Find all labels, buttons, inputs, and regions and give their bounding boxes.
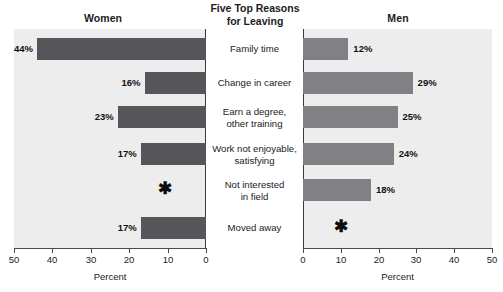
tick-label-men-3: 30 xyxy=(402,254,430,265)
tick-label-women-4: 10 xyxy=(154,254,182,265)
x-axis-women xyxy=(14,248,206,249)
tick-label-men-1: 10 xyxy=(327,254,355,265)
tick-women-0 xyxy=(14,248,15,253)
category-label-5: Moved away xyxy=(206,222,303,234)
category-label-3-line2: satisfying xyxy=(206,155,303,167)
category-label-3: Work not enjoyable,satisfying xyxy=(206,143,303,166)
x-axis-title-women: Percent xyxy=(14,271,206,282)
tick-label-women-3: 20 xyxy=(115,254,143,265)
category-label-2-line1: Earn a degree, xyxy=(206,106,303,118)
tick-label-women-1: 40 xyxy=(38,254,66,265)
category-label-1: Change in career xyxy=(206,77,303,89)
bar-women-1 xyxy=(145,72,206,94)
tick-men-4 xyxy=(454,248,455,253)
tick-label-women-5: 0 xyxy=(192,254,220,265)
tick-women-4 xyxy=(168,248,169,253)
bar-women-2 xyxy=(118,106,206,128)
category-label-5-line1: Moved away xyxy=(206,222,303,234)
panel-title-men: Men xyxy=(303,12,493,24)
category-label-3-line1: Work not enjoyable, xyxy=(206,143,303,155)
tick-label-women-0: 50 xyxy=(0,254,28,265)
chart-title: Five Top Reasons for Leaving xyxy=(196,2,314,27)
tick-men-3 xyxy=(416,248,417,253)
value-label-women-5: 17% xyxy=(97,217,137,239)
tick-women-1 xyxy=(52,248,53,253)
suppressed-marker-men-5: ✱ xyxy=(331,216,351,238)
bar-men-0 xyxy=(303,38,348,60)
category-label-2: Earn a degree,other training xyxy=(206,106,303,129)
tick-men-2 xyxy=(379,248,380,253)
value-label-women-2: 23% xyxy=(74,106,114,128)
tick-label-men-0: 0 xyxy=(289,254,317,265)
tick-label-men-5: 50 xyxy=(478,254,503,265)
value-label-men-3: 24% xyxy=(399,143,439,165)
panel-title-women: Women xyxy=(0,12,206,24)
value-label-men-4: 18% xyxy=(376,179,416,201)
bar-men-3 xyxy=(303,143,394,165)
bar-men-4 xyxy=(303,179,371,201)
x-axis-title-men: Percent xyxy=(303,271,492,282)
tick-men-0 xyxy=(303,248,304,253)
value-label-men-0: 12% xyxy=(353,38,393,60)
value-label-men-1: 29% xyxy=(418,72,458,94)
tick-women-2 xyxy=(91,248,92,253)
chart-title-line2: for Leaving xyxy=(196,15,314,28)
category-label-0: Family time xyxy=(206,43,303,55)
value-label-women-1: 16% xyxy=(101,72,141,94)
value-label-women-0: 44% xyxy=(0,38,33,60)
suppressed-marker-women-4: ✱ xyxy=(155,178,175,200)
tick-men-5 xyxy=(492,248,493,253)
x-axis-men xyxy=(303,248,492,249)
tick-men-1 xyxy=(341,248,342,253)
bar-women-0 xyxy=(37,38,206,60)
category-label-column: Family timeChange in careerEarn a degree… xyxy=(206,29,303,248)
value-label-women-3: 17% xyxy=(97,143,137,165)
category-label-2-line2: other training xyxy=(206,118,303,130)
tick-label-men-2: 20 xyxy=(365,254,393,265)
bar-men-1 xyxy=(303,72,413,94)
value-label-men-2: 25% xyxy=(403,106,443,128)
bar-women-5 xyxy=(141,217,206,239)
chart-title-line1: Five Top Reasons xyxy=(196,2,314,15)
tick-label-women-2: 30 xyxy=(77,254,105,265)
chart-figure: Five Top Reasons for Leaving Women Men F… xyxy=(0,0,503,292)
category-label-4-line2: in field xyxy=(206,191,303,203)
plot-area-women xyxy=(14,29,206,248)
category-label-4: Not interestedin field xyxy=(206,179,303,202)
category-label-1-line1: Change in career xyxy=(206,77,303,89)
bar-women-3 xyxy=(141,143,206,165)
category-label-4-line1: Not interested xyxy=(206,179,303,191)
tick-label-men-4: 40 xyxy=(440,254,468,265)
tick-women-3 xyxy=(129,248,130,253)
tick-women-5 xyxy=(206,248,207,253)
bar-men-2 xyxy=(303,106,398,128)
category-label-0-line1: Family time xyxy=(206,43,303,55)
